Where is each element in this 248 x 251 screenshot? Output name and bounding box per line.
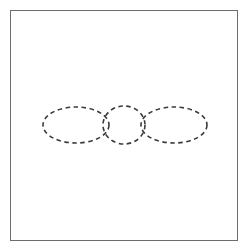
diagram-canvas [0, 0, 248, 251]
outer-frame [10, 10, 238, 241]
